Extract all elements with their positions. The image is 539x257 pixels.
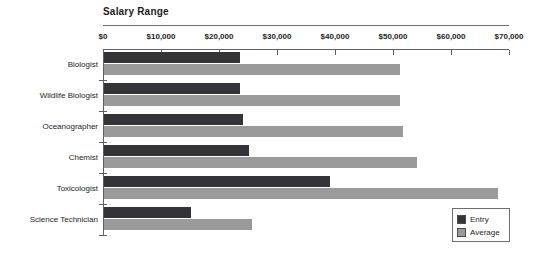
bar-entry — [104, 114, 243, 125]
y-axis-tick-mark — [99, 235, 107, 236]
x-axis-tick-labels: $0$10,000$20,000$30,000$40,000$50,000$60… — [0, 32, 539, 45]
bar-average — [104, 64, 400, 75]
x-axis-tick-label: $20,000 — [205, 32, 234, 41]
chart-title: Salary Range — [103, 6, 169, 17]
bar-entry — [104, 83, 240, 94]
bar-group — [104, 80, 509, 111]
y-axis-tick-mark — [99, 80, 107, 81]
chart-legend: EntryAverage — [452, 208, 510, 242]
bar-entry — [104, 176, 330, 187]
y-axis-category-label: Toxicologist — [57, 184, 98, 193]
x-axis-tick-label: $50,000 — [379, 32, 408, 41]
y-axis-category-label: Biologist — [68, 60, 98, 69]
bar-entry — [104, 207, 191, 218]
bar-group — [104, 49, 509, 80]
y-axis-tick-mark — [99, 204, 107, 205]
y-axis-category-label: Oceanographer — [42, 122, 98, 131]
y-axis-category-label: Chemist — [69, 153, 98, 162]
bar-average — [104, 157, 417, 168]
y-axis-category-label: Wildlife Biologist — [40, 91, 98, 100]
legend-swatch-average — [457, 228, 466, 237]
bar-average — [104, 126, 403, 137]
bar-group — [104, 111, 509, 142]
y-axis-category-label: Science Technician — [30, 215, 98, 224]
y-axis-category-labels: BiologistWildlife BiologistOceanographer… — [0, 49, 98, 235]
bar-entry — [104, 52, 240, 63]
x-axis-tick-label: $70,000 — [495, 32, 524, 41]
bar-group — [104, 173, 509, 204]
x-axis-tick-label: $0 — [99, 32, 108, 41]
legend-item: Average — [457, 226, 500, 238]
y-axis-tick-mark — [99, 173, 107, 174]
salary-range-bar-chart: Salary Range $0$10,000$20,000$30,000$40,… — [0, 0, 539, 257]
bar-group — [104, 204, 509, 235]
bar-average — [104, 219, 252, 230]
legend-label: Average — [470, 228, 500, 237]
legend-item: Entry — [457, 213, 489, 225]
bar-average — [104, 95, 400, 106]
x-axis-tick-label: $10,000 — [147, 32, 176, 41]
bar-average — [104, 188, 498, 199]
y-axis-tick-mark — [99, 142, 107, 143]
legend-swatch-entry — [457, 215, 466, 224]
legend-label: Entry — [470, 215, 489, 224]
plot-area — [103, 49, 509, 235]
x-axis-tick-label: $60,000 — [437, 32, 466, 41]
bar-group — [104, 142, 509, 173]
bar-entry — [104, 145, 249, 156]
x-axis-tick-mark — [509, 50, 510, 55]
title-divider — [103, 25, 509, 26]
x-axis-tick-label: $40,000 — [321, 32, 350, 41]
y-axis-tick-mark — [99, 111, 107, 112]
x-axis-tick-label: $30,000 — [263, 32, 292, 41]
